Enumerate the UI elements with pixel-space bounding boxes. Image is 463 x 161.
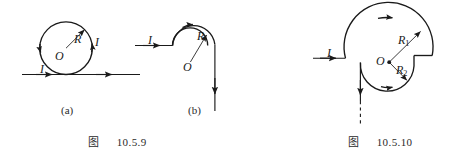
caption-figure-10: 图 10.5.10 — [348, 137, 413, 148]
center-label-10: O — [376, 55, 385, 67]
caption-figure-9: 图 10.5.9 — [88, 137, 147, 148]
radius-r1-subscript: 1 — [405, 39, 409, 48]
panel-sublabel-a: (a) — [61, 105, 73, 116]
current-label-wire-9b: I — [148, 34, 152, 46]
figure-10-artwork — [313, 2, 433, 124]
radius-label-r1-10: R1 — [398, 34, 409, 48]
radius-label-9b: R — [197, 30, 204, 42]
current-arrow-outer-arc-10 — [378, 17, 393, 18]
current-label-wire-10: I — [327, 47, 331, 59]
radius-label-9a: R — [74, 33, 81, 45]
radius-r2-subscript: 2 — [403, 69, 407, 78]
current-arrow-loop-left-9a — [40, 44, 41, 53]
caption-cjk-10: 图 — [348, 136, 359, 149]
current-label-loop-9a: I — [95, 36, 99, 48]
radius-label-r2-10: R2 — [396, 64, 407, 78]
current-label-wire-9a: I — [40, 63, 44, 75]
caption-cjk-9: 图 — [88, 136, 99, 149]
figure-page: R O I I (a) R O I (b) 图 10.5.9 R1 R2 O I… — [0, 0, 463, 161]
caption-number-9: 10.5.9 — [117, 136, 147, 148]
caption-number-10: 10.5.10 — [377, 136, 413, 148]
outer-arc-10 — [344, 2, 433, 58]
current-arrow-inner-arc-10 — [381, 87, 393, 88]
center-label-9b: O — [183, 61, 192, 73]
current-arrow-loop-right-9a — [92, 44, 93, 53]
center-label-9a: O — [55, 50, 64, 62]
panel-sublabel-b: (b) — [188, 105, 201, 116]
